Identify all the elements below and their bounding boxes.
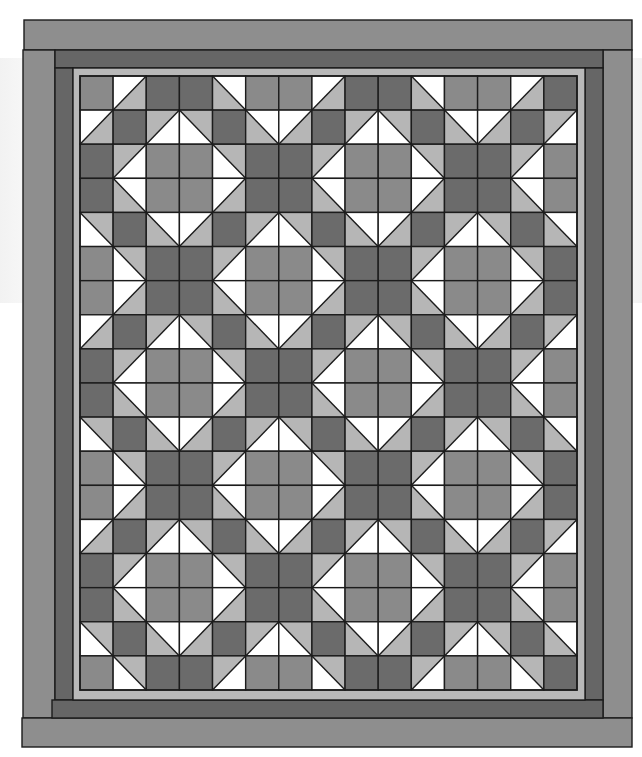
medium-square	[279, 281, 312, 315]
dark-square	[146, 485, 179, 519]
medium-square	[478, 247, 511, 281]
half-square-triangle	[113, 349, 146, 383]
half-square-triangle	[511, 451, 544, 485]
dark-square	[345, 247, 378, 281]
half-square-triangle	[113, 178, 146, 212]
half-square-triangle	[444, 622, 477, 656]
dark-square	[444, 588, 477, 622]
half-square-triangle	[80, 622, 113, 656]
half-square-triangle	[312, 76, 345, 110]
dark-square	[80, 349, 113, 383]
dark-square	[378, 451, 411, 485]
dark-border-left	[55, 68, 73, 700]
half-square-triangle	[113, 588, 146, 622]
dark-square	[113, 417, 146, 451]
dark-square	[80, 383, 113, 417]
half-square-triangle	[179, 417, 212, 451]
medium-square	[246, 451, 279, 485]
medium-square	[345, 349, 378, 383]
dark-square	[312, 417, 345, 451]
half-square-triangle	[312, 588, 345, 622]
half-square-triangle	[213, 281, 246, 315]
dark-square	[345, 281, 378, 315]
half-square-triangle	[511, 383, 544, 417]
medium-square	[279, 451, 312, 485]
dark-square	[544, 247, 577, 281]
half-square-triangle	[544, 212, 577, 246]
medium-square	[80, 76, 113, 110]
medium-square	[544, 349, 577, 383]
half-square-triangle	[345, 417, 378, 451]
medium-square	[444, 656, 477, 690]
half-square-triangle	[511, 247, 544, 281]
half-square-triangle	[312, 451, 345, 485]
medium-square	[544, 383, 577, 417]
dark-square	[478, 383, 511, 417]
dark-square	[511, 315, 544, 349]
dark-square	[312, 622, 345, 656]
half-square-triangle	[511, 178, 544, 212]
medium-square	[246, 281, 279, 315]
medium-square	[179, 144, 212, 178]
half-square-triangle	[279, 622, 312, 656]
half-square-triangle	[312, 485, 345, 519]
dark-square	[246, 144, 279, 178]
dark-square	[146, 656, 179, 690]
dark-square	[179, 451, 212, 485]
half-square-triangle	[411, 383, 444, 417]
dark-square	[279, 588, 312, 622]
dark-square	[246, 383, 279, 417]
dark-square	[378, 485, 411, 519]
half-square-triangle	[478, 622, 511, 656]
dark-square	[80, 178, 113, 212]
dark-square	[378, 247, 411, 281]
medium-square	[246, 485, 279, 519]
half-square-triangle	[113, 383, 146, 417]
quilt-block-grid	[80, 76, 577, 690]
half-square-triangle	[411, 76, 444, 110]
dark-square	[279, 554, 312, 588]
medium-square	[378, 383, 411, 417]
half-square-triangle	[312, 281, 345, 315]
medium-square	[179, 349, 212, 383]
half-square-triangle	[444, 417, 477, 451]
dark-square	[544, 76, 577, 110]
half-square-triangle	[411, 485, 444, 519]
half-square-triangle	[113, 554, 146, 588]
half-square-triangle	[113, 76, 146, 110]
half-square-triangle	[279, 417, 312, 451]
dark-square	[146, 247, 179, 281]
half-square-triangle	[544, 622, 577, 656]
quilt-diagram	[0, 0, 642, 757]
dark-square	[544, 485, 577, 519]
half-square-triangle	[213, 178, 246, 212]
half-square-triangle	[146, 110, 179, 144]
dark-square	[312, 519, 345, 553]
dark-square	[179, 656, 212, 690]
medium-square	[478, 76, 511, 110]
dark-square	[279, 178, 312, 212]
half-square-triangle	[378, 212, 411, 246]
half-square-triangle	[511, 281, 544, 315]
medium-square	[345, 144, 378, 178]
dark-square	[80, 144, 113, 178]
dark-square	[80, 554, 113, 588]
dark-square	[246, 554, 279, 588]
medium-square	[544, 554, 577, 588]
half-square-triangle	[544, 315, 577, 349]
half-square-triangle	[113, 656, 146, 690]
half-square-triangle	[246, 519, 279, 553]
half-square-triangle	[312, 554, 345, 588]
dark-square	[213, 315, 246, 349]
half-square-triangle	[213, 588, 246, 622]
dark-square	[544, 656, 577, 690]
half-square-triangle	[179, 519, 212, 553]
half-square-triangle	[246, 212, 279, 246]
half-square-triangle	[213, 349, 246, 383]
medium-square	[478, 281, 511, 315]
dark-square	[478, 588, 511, 622]
half-square-triangle	[80, 315, 113, 349]
dark-square	[80, 588, 113, 622]
half-square-triangle	[213, 76, 246, 110]
outer-border-right	[603, 50, 632, 718]
